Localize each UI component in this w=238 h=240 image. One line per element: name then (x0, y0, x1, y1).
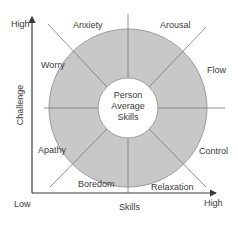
center-label-line3: Skills (98, 112, 158, 123)
center-label: Person Average Skills (98, 90, 158, 123)
segment-arousal: Arousal (160, 21, 191, 30)
segment-flow: Flow (207, 66, 226, 75)
center-label-line1: Person (98, 90, 158, 101)
y-axis-high-label: High (11, 20, 30, 29)
segment-anxiety: Anxiety (73, 21, 103, 30)
segment-boredom: Boredom (78, 180, 115, 189)
segment-apathy: Apathy (38, 146, 66, 155)
segment-control: Control (199, 147, 228, 156)
segment-relaxation: Relaxation (151, 183, 194, 192)
x-axis-title: Skills (119, 203, 140, 212)
origin-low-label: Low (14, 200, 31, 209)
x-axis-high-label: High (204, 199, 223, 208)
y-axis-title: Challenge (15, 85, 25, 126)
center-label-line2: Average (98, 101, 158, 112)
segment-worry: Worry (41, 61, 65, 70)
